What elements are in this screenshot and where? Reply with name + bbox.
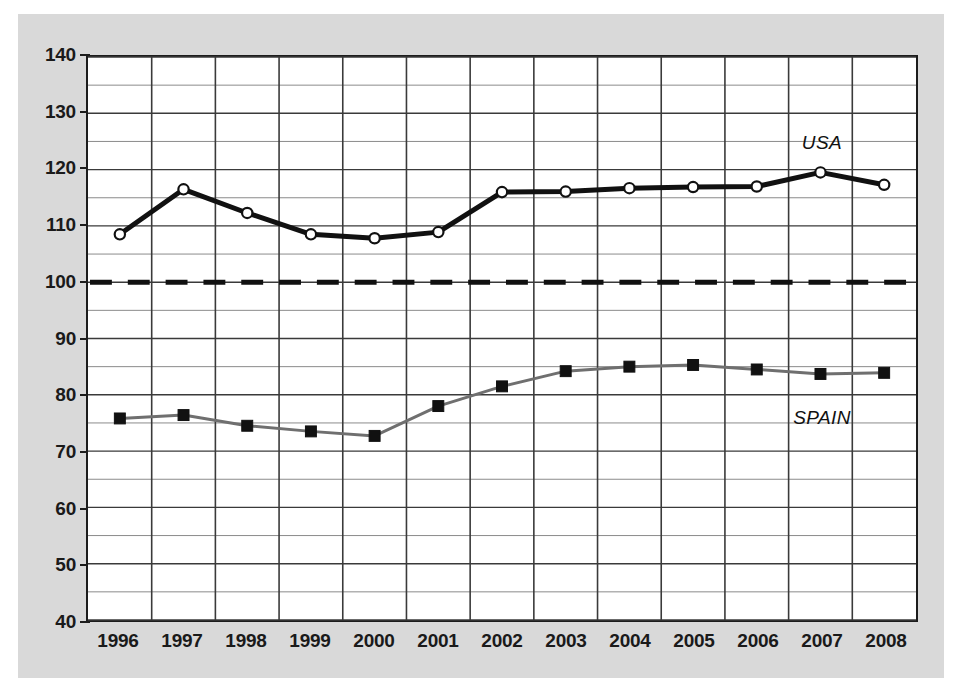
y-tick-label-130: 130 [45,101,76,123]
series-annotations: USASPAIN [86,55,918,622]
chart-figure: 140130120110100908070605040 199619971998… [0,0,966,700]
x-tick-label-2002: 2002 [481,630,522,652]
y-tick-label-140: 140 [45,44,76,66]
y-tick-label-70: 70 [55,441,76,463]
y-tick-label-90: 90 [55,328,76,350]
x-axis: 1996199719981999200020012002200320042005… [86,630,918,664]
y-tick-label-40: 40 [55,611,76,633]
series-annotation-spain: SPAIN [793,407,851,429]
y-tick-label-110: 110 [46,214,76,236]
y-tick-label-60: 60 [55,498,76,520]
y-tick-label-100: 100 [45,271,76,293]
x-tick-label-2000: 2000 [353,630,394,652]
x-tick-label-2005: 2005 [673,630,714,652]
x-tick-label-2003: 2003 [545,630,586,652]
x-tick-label-1999: 1999 [289,630,330,652]
x-tick-label-1997: 1997 [161,630,202,652]
x-tick-label-2001: 2001 [417,630,458,652]
y-tick-label-120: 120 [45,157,76,179]
series-annotation-usa: USA [802,132,842,154]
x-tick-label-1998: 1998 [225,630,266,652]
y-tick-label-50: 50 [55,554,76,576]
x-tick-label-2004: 2004 [609,630,650,652]
x-tick-label-2006: 2006 [737,630,778,652]
y-tick-label-80: 80 [55,384,76,406]
y-axis: 140130120110100908070605040 [18,55,76,622]
x-tick-label-2007: 2007 [801,630,842,652]
x-tick-label-1996: 1996 [97,630,138,652]
x-tick-label-2008: 2008 [865,630,906,652]
